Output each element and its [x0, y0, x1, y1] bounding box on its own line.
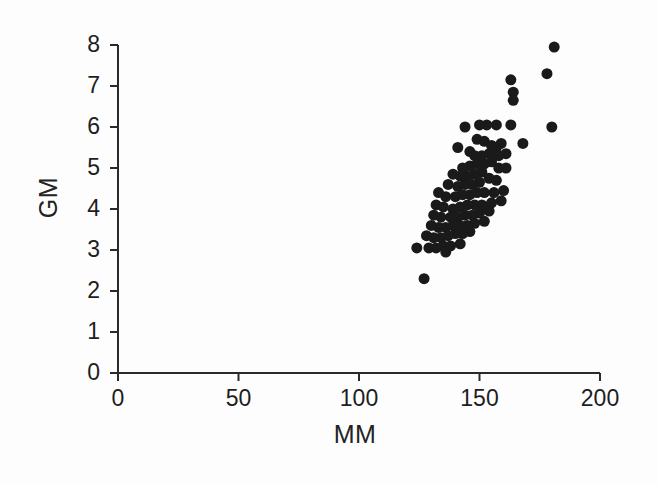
data-point: [433, 187, 444, 198]
data-point: [541, 68, 552, 79]
data-points-group: [411, 42, 559, 285]
data-point: [491, 175, 502, 186]
x-tick-label: 100: [329, 385, 389, 412]
scatter-plot-figure: 012345678 050100150200 GM MM: [0, 0, 658, 485]
y-tick-label: 8: [60, 31, 100, 58]
data-point: [411, 242, 422, 253]
y-tick-label: 4: [60, 195, 100, 222]
y-axis-label: GM: [34, 172, 63, 224]
data-point: [421, 230, 432, 241]
data-point: [498, 185, 509, 196]
data-point: [474, 119, 485, 130]
data-point: [491, 119, 502, 130]
y-tick-label: 5: [60, 154, 100, 181]
data-point: [419, 273, 430, 284]
data-point: [549, 42, 560, 53]
data-point: [505, 119, 516, 130]
data-point: [484, 206, 495, 217]
data-point: [460, 122, 471, 133]
data-point: [546, 122, 557, 133]
data-point: [450, 191, 461, 202]
x-tick-label: 50: [209, 385, 269, 412]
data-point: [464, 146, 475, 157]
data-point: [447, 169, 458, 180]
y-tick-label: 6: [60, 113, 100, 140]
y-tick-marks: [110, 45, 118, 373]
x-tick-marks: [118, 373, 600, 381]
data-point: [452, 142, 463, 153]
y-tick-label: 1: [60, 318, 100, 345]
data-point: [426, 220, 437, 231]
data-point: [423, 242, 434, 253]
x-axis-label: MM: [305, 420, 405, 449]
data-point: [488, 187, 499, 198]
data-point: [455, 238, 466, 249]
data-point: [501, 163, 512, 174]
data-point: [496, 195, 507, 206]
y-tick-label: 0: [60, 359, 100, 386]
x-tick-label: 0: [88, 385, 148, 412]
x-tick-label: 150: [450, 385, 510, 412]
data-point: [479, 216, 490, 227]
x-tick-label: 200: [570, 385, 630, 412]
y-tick-label: 7: [60, 72, 100, 99]
y-tick-label: 2: [60, 277, 100, 304]
data-point: [428, 210, 439, 221]
data-point: [440, 247, 451, 258]
data-point: [431, 199, 442, 210]
data-point: [505, 74, 516, 85]
data-point: [508, 95, 519, 106]
y-tick-label: 3: [60, 236, 100, 263]
data-point: [443, 179, 454, 190]
axes-group: [118, 45, 600, 373]
data-point: [517, 138, 528, 149]
